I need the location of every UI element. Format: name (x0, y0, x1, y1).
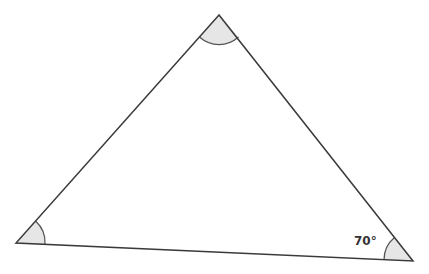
angle-marker-bottom-left (16, 221, 45, 244)
triangle (16, 15, 413, 261)
angle-label-bottom-right: 70° (354, 234, 377, 248)
angle-marker-bottom-right (384, 238, 413, 262)
triangle-diagram: 70° (0, 0, 429, 274)
